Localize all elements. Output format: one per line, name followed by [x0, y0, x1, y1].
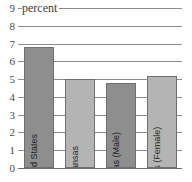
bar-label: United States — [30, 134, 39, 168]
bar: Kansas — [65, 79, 95, 168]
bar-label: Kansas — [71, 146, 80, 168]
y-tick-label-1: 1 — [2, 145, 15, 156]
y-tick-label-8: 8 — [2, 20, 15, 31]
bar-chart: 9876543210 percent United StatesKansasKa… — [0, 0, 192, 182]
bar-label: Kansas (Female) — [153, 127, 162, 168]
bar: United States — [24, 47, 54, 168]
bar-label: Kansas (Male) — [112, 132, 121, 168]
y-tick-label-6: 6 — [2, 56, 15, 67]
y-tick-label-4: 4 — [2, 91, 15, 102]
y-tick-label-9: 9 — [2, 3, 15, 14]
plot-area: United StatesKansasKansas (Male)Kansas (… — [18, 8, 182, 168]
y-tick-label-2: 2 — [2, 127, 15, 138]
y-tick-label-7: 7 — [2, 38, 15, 49]
y-axis-unit-caption: percent — [22, 2, 59, 14]
gridline-0 — [18, 168, 182, 169]
bar: Kansas (Male) — [106, 83, 136, 168]
y-tick-label-3: 3 — [2, 109, 15, 120]
y-tick-label-5: 5 — [2, 74, 15, 85]
bar: Kansas (Female) — [147, 76, 177, 168]
y-tick-label-0: 0 — [2, 163, 15, 174]
